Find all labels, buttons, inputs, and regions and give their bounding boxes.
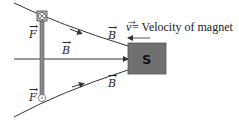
vector-accent: →: [29, 83, 38, 96]
magnet-diagram: S v → = Velocity of magnet B → B → B → F…: [0, 0, 239, 121]
vector-accent: →: [108, 69, 117, 82]
velocity-label: = Velocity of magnet: [132, 20, 234, 34]
vector-accent: →: [108, 21, 117, 34]
conducting-rod: [40, 14, 44, 98]
vector-accent: →: [29, 20, 38, 33]
magnet-pole-label: S: [142, 52, 151, 67]
vector-accent: →: [62, 36, 71, 49]
